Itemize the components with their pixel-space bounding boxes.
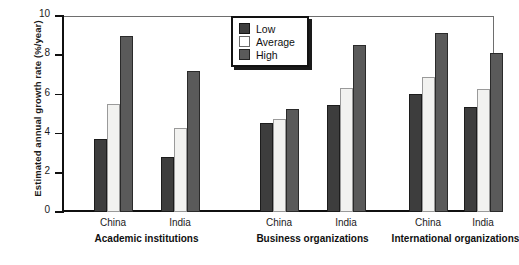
x-tick-label-country: China bbox=[415, 217, 441, 228]
bar-average-india-1 bbox=[174, 128, 187, 212]
legend-swatch-high-icon bbox=[239, 49, 250, 60]
bar-average-india-3 bbox=[340, 88, 353, 212]
x-tick-label-country: India bbox=[335, 217, 357, 228]
legend-item-average: Average bbox=[239, 35, 295, 48]
y-axis-title: Estimated annual growth rate (%/year) bbox=[32, 9, 43, 209]
bar-average-india-5 bbox=[477, 89, 490, 212]
bar-low-india-1 bbox=[161, 157, 174, 212]
x-tick-label-country: India bbox=[169, 217, 191, 228]
bar-high-india-1 bbox=[187, 71, 200, 212]
legend-label-high: High bbox=[256, 49, 278, 61]
y-tick-label: 10 bbox=[39, 8, 50, 19]
chart-legend: Low Average High bbox=[231, 16, 309, 67]
y-tick-label: 2 bbox=[44, 165, 50, 176]
legend-item-high: High bbox=[239, 48, 295, 61]
bar-low-india-3 bbox=[327, 105, 340, 212]
x-group-label: International organizations bbox=[392, 233, 519, 244]
x-axis-labels: ChinaIndiaChinaIndiaChinaIndiaAcademic i… bbox=[62, 214, 494, 260]
y-tick-label: 8 bbox=[44, 47, 50, 58]
bar-low-china-0 bbox=[94, 139, 107, 213]
bar-high-china-2 bbox=[286, 109, 299, 212]
y-tick-label: 4 bbox=[44, 126, 50, 137]
y-tick-label: 0 bbox=[44, 204, 50, 215]
x-group-label: Business organizations bbox=[256, 233, 368, 244]
bar-average-china-4 bbox=[422, 77, 435, 212]
bar-average-china-2 bbox=[273, 119, 286, 212]
bar-low-china-4 bbox=[409, 94, 422, 212]
x-tick-label-country: China bbox=[100, 217, 126, 228]
legend-label-low: Low bbox=[256, 23, 275, 35]
bar-average-china-0 bbox=[107, 104, 120, 212]
y-tick-label: 6 bbox=[44, 87, 50, 98]
legend-label-average: Average bbox=[256, 36, 295, 48]
legend-swatch-low-icon bbox=[239, 23, 250, 34]
legend-swatch-average-icon bbox=[239, 36, 250, 47]
bar-low-india-5 bbox=[464, 107, 477, 212]
bar-high-india-3 bbox=[353, 45, 366, 212]
bar-low-china-2 bbox=[260, 123, 273, 212]
x-group-label: Academic institutions bbox=[95, 233, 199, 244]
bar-high-china-4 bbox=[435, 33, 448, 212]
bar-high-india-5 bbox=[490, 53, 503, 212]
legend-item-low: Low bbox=[239, 22, 295, 35]
x-tick-label-country: India bbox=[472, 217, 494, 228]
x-tick-label-country: China bbox=[266, 217, 292, 228]
bar-high-china-0 bbox=[120, 36, 133, 212]
